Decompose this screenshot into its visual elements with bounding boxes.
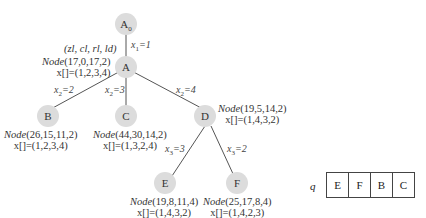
edge-label-a0-a: x1=1: [131, 39, 151, 53]
node-a: A: [115, 56, 137, 78]
node-f: F: [226, 172, 248, 194]
edge-label-a-b: x2=2: [54, 84, 74, 98]
node-f-info: Node(25,17,8,4) x[]=(1,4,2,3): [203, 196, 272, 218]
queue-cell: B: [371, 173, 393, 197]
queue: E F B C: [326, 172, 415, 198]
node-a0: A0: [115, 13, 137, 35]
node-e: E: [154, 172, 176, 194]
node-c: C: [115, 105, 137, 127]
edge-label-d-f: x3=2: [227, 143, 247, 157]
node-a-info: Node(17,0,17,2) x[]=(1,2,3,4): [42, 56, 111, 78]
queue-cell: C: [393, 173, 414, 197]
queue-cell: E: [327, 173, 349, 197]
node-b-info: Node(26,15,11,2) x[]=(1,2,3,4): [4, 129, 77, 151]
node-e-info: Node(19,8,11,4) x[]=(1,4,3,2): [130, 196, 198, 218]
node-d-info: Node(19,5,14,2) x[]=(1,4,3,2): [218, 103, 287, 125]
node-c-info: Node(44,30,14,2) x[]=(1,3,2,4): [93, 129, 167, 151]
queue-cell: F: [349, 173, 371, 197]
edge-label-d-e: x3=3: [165, 143, 185, 157]
legend-label: (zl, cl, rl, ld): [64, 43, 117, 54]
edge-label-a-d: x2=4: [176, 84, 196, 98]
queue-label: q: [310, 180, 316, 192]
node-b: B: [37, 105, 59, 127]
node-d: D: [194, 105, 216, 127]
edge-label-a-c: x2=3: [105, 84, 125, 98]
